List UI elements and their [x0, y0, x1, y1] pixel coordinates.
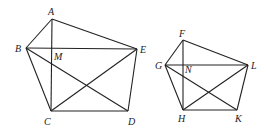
segment-ea	[52, 19, 137, 49]
pentagon-abcde: A B M E C D	[15, 6, 146, 127]
label-a: A	[47, 6, 55, 17]
pentagon-fghkl: F G N L H K	[155, 28, 257, 124]
segment-be	[26, 48, 137, 49]
segment-de	[128, 49, 137, 111]
label-n: N	[184, 64, 193, 75]
segment-lf	[183, 40, 248, 65]
segment-fg	[165, 40, 183, 65]
label-m: M	[53, 51, 63, 62]
label-h: H	[177, 113, 186, 124]
segment-bc	[26, 48, 51, 111]
segment-gh	[165, 65, 183, 110]
label-c: C	[44, 116, 51, 127]
label-d: D	[127, 116, 136, 127]
segment-ce	[51, 49, 137, 111]
segment-gk	[165, 65, 237, 110]
segment-ab	[26, 19, 52, 48]
label-l: L	[250, 60, 257, 71]
label-f: F	[178, 28, 186, 39]
segment-ac	[51, 19, 52, 111]
label-e: E	[139, 44, 146, 55]
label-k: K	[234, 113, 243, 124]
geometry-diagram: A B M E C D F G N L H K	[0, 0, 267, 132]
label-g: G	[155, 60, 162, 71]
diagram-canvas: A B M E C D F G N L H K	[0, 0, 267, 132]
segment-bd	[26, 48, 128, 111]
label-b: B	[15, 43, 21, 54]
